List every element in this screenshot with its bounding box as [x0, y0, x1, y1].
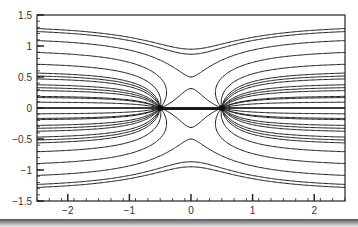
x-tick-label: 1 — [250, 205, 256, 216]
y-tick-label: 1.5 — [18, 10, 32, 21]
y-tick-label: −0.5 — [12, 134, 32, 145]
y-tick-label: −1 — [21, 165, 33, 176]
x-tick-label: 0 — [188, 205, 194, 216]
x-tick-label: −1 — [124, 205, 136, 216]
source-point — [157, 105, 163, 111]
bottom-edge — [0, 219, 358, 227]
x-tick-label: 2 — [311, 205, 317, 216]
y-tick-label: 0.5 — [18, 72, 32, 83]
y-tick-label: 0 — [26, 103, 32, 114]
x-tick-label: −2 — [62, 205, 74, 216]
streamline-plot: −2−1012−1.5−1−0.500.511.5 — [0, 0, 358, 227]
sink-point — [219, 105, 225, 111]
streamlines — [37, 29, 345, 188]
y-tick-label: −1.5 — [12, 196, 32, 207]
y-tick-label: 1 — [26, 41, 32, 52]
